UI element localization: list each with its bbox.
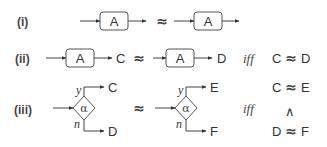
rule-ii: (ii) A C ≈ A D iff C ≈ D <box>15 49 310 67</box>
process-label: A <box>176 51 185 66</box>
rule-iii: (iii) α y C n D ≈ α y E n F iff <box>14 79 310 139</box>
and-symbol: ∧ <box>285 104 295 119</box>
process-label: A <box>204 14 213 29</box>
row-label-i: (i) <box>17 15 28 29</box>
condition1-rhs: E <box>301 80 310 95</box>
condition-rhs: D <box>301 51 310 66</box>
condition-conjunction: C ≈ E ∧ D ≈ F <box>272 79 310 139</box>
no-label: n <box>74 117 80 131</box>
approx-symbol: ≈ <box>156 13 168 29</box>
yes-branch-arrow <box>84 87 104 96</box>
condition-alpha: α <box>182 102 190 115</box>
approx-symbol: ≈ <box>285 50 297 66</box>
approx-symbol: ≈ <box>133 100 145 116</box>
yes-branch-arrow <box>186 87 206 96</box>
right-branch-alpha: α y E n F <box>155 80 219 139</box>
process-label: A <box>76 51 85 66</box>
approx-symbol: ≈ <box>133 50 145 66</box>
condition-lhs: C <box>272 51 281 66</box>
no-label: n <box>176 117 182 131</box>
rule-i: (i) A ≈ A <box>17 12 239 30</box>
process-label: A <box>110 14 119 29</box>
iff-keyword: iff <box>243 101 256 116</box>
condition2-lhs: D <box>272 124 281 139</box>
no-branch-arrow <box>186 120 206 131</box>
right-process-a-to-d: A D <box>153 49 226 67</box>
yes-label: y <box>177 83 184 97</box>
left-process-a: A <box>80 12 146 30</box>
no-output: F <box>210 124 218 139</box>
left-process-a-to-c: A C <box>46 49 125 67</box>
condition2-rhs: F <box>301 124 309 139</box>
output-label: D <box>217 51 226 66</box>
condition: C ≈ D <box>272 50 310 66</box>
no-branch-arrow <box>84 120 104 131</box>
iff-keyword: iff <box>243 51 256 66</box>
approx-symbol: ≈ <box>285 79 297 95</box>
condition1-lhs: C <box>272 80 281 95</box>
yes-label: y <box>75 83 82 97</box>
condition-alpha: α <box>80 102 88 115</box>
left-branch-alpha: α y C n D <box>53 80 117 139</box>
approx-symbol: ≈ <box>285 123 297 139</box>
output-label: C <box>116 51 125 66</box>
no-output: D <box>108 124 117 139</box>
yes-output: E <box>210 80 219 95</box>
right-process-a: A <box>174 12 239 30</box>
row-label-ii: (ii) <box>15 52 30 66</box>
row-label-iii: (iii) <box>14 103 32 117</box>
yes-output: C <box>108 80 117 95</box>
equivalence-rules-diagram: (i) A ≈ A (ii) A C ≈ A <box>0 0 327 147</box>
